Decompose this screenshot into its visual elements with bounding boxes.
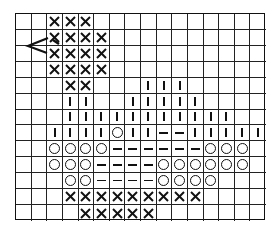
grid-cell [32, 125, 48, 141]
grid-cell [125, 173, 141, 189]
pattern-grid [15, 13, 265, 220]
grid-cell [219, 62, 235, 78]
grid-cell [47, 141, 63, 157]
cross-symbol-icon [49, 16, 60, 27]
grid-cell [172, 173, 188, 189]
bar-symbol-icon [132, 112, 134, 121]
dash-symbol-icon [97, 180, 106, 182]
circle-symbol-icon [174, 175, 185, 186]
grid-cell [188, 125, 204, 141]
grid-cell [79, 30, 95, 46]
circle-symbol-icon [237, 159, 248, 170]
circle-symbol-icon [65, 143, 76, 154]
bar-symbol-icon [100, 112, 102, 121]
grid-cell [204, 94, 220, 110]
grid-cell [157, 189, 173, 205]
dash-symbol-icon [144, 180, 153, 182]
cross-symbol-icon [80, 191, 91, 202]
grid-cell [157, 141, 173, 157]
grid-cell [110, 78, 126, 94]
grid-cell [125, 141, 141, 157]
grid-cell [16, 173, 32, 189]
grid-cell [235, 14, 251, 30]
cross-symbol-icon [96, 64, 107, 75]
grid-cell [94, 110, 110, 126]
grid-cell [32, 205, 48, 221]
circle-symbol-icon [65, 159, 76, 170]
grid-cell [94, 189, 110, 205]
grid-cell [188, 173, 204, 189]
grid-cell [47, 173, 63, 189]
cross-symbol-icon [112, 191, 123, 202]
bar-symbol-icon [241, 128, 243, 137]
grid-cell [204, 205, 220, 221]
bar-symbol-icon [69, 128, 71, 137]
grid-cell [219, 141, 235, 157]
cross-symbol-icon [65, 64, 76, 75]
grid-cell [188, 141, 204, 157]
grid-cell [235, 173, 251, 189]
bar-symbol-icon [225, 112, 227, 121]
grid-cell [204, 78, 220, 94]
grid-cell [32, 141, 48, 157]
grid-cell [63, 110, 79, 126]
dash-symbol-icon [175, 148, 184, 150]
cross-symbol-icon [96, 48, 107, 59]
cross-symbol-icon [190, 191, 201, 202]
grid-cell [79, 205, 95, 221]
grid-cell [204, 173, 220, 189]
circle-symbol-icon [96, 143, 107, 154]
grid-cell [63, 141, 79, 157]
grid-cell [172, 46, 188, 62]
circle-symbol-icon [205, 159, 216, 170]
grid-cell [94, 46, 110, 62]
dash-symbol-icon [128, 164, 137, 166]
grid-cell [219, 125, 235, 141]
bar-symbol-icon [147, 97, 149, 106]
grid-cell [110, 30, 126, 46]
grid-cell [172, 14, 188, 30]
cross-symbol-icon [143, 208, 154, 219]
grid-cell [125, 125, 141, 141]
grid-cell [125, 205, 141, 221]
circle-symbol-icon [49, 143, 60, 154]
grid-cell [63, 46, 79, 62]
grid-cell [250, 125, 266, 141]
grid-cell [219, 30, 235, 46]
grid-cell [110, 110, 126, 126]
grid-cell [250, 14, 266, 30]
grid-cell [125, 30, 141, 46]
cross-symbol-icon [49, 32, 60, 43]
grid-cell [79, 110, 95, 126]
grid-cell [32, 110, 48, 126]
circle-symbol-icon [221, 159, 232, 170]
grid-cell [250, 46, 266, 62]
grid-cell [32, 157, 48, 173]
grid-cell [94, 78, 110, 94]
grid-cell [141, 14, 157, 30]
grid-cell [172, 78, 188, 94]
grid-cell [188, 62, 204, 78]
grid-cell [94, 125, 110, 141]
dash-symbol-icon [128, 180, 137, 182]
dash-symbol-icon [144, 164, 153, 166]
cross-symbol-icon [96, 191, 107, 202]
grid-cell [141, 125, 157, 141]
cross-symbol-icon [80, 32, 91, 43]
grid-cell [235, 110, 251, 126]
dash-symbol-icon [159, 148, 168, 150]
grid-cell [125, 110, 141, 126]
grid-cell [235, 141, 251, 157]
circle-symbol-icon [205, 175, 216, 186]
grid-cell [219, 189, 235, 205]
cross-symbol-icon [65, 32, 76, 43]
grid-cell [110, 205, 126, 221]
grid-cell [157, 78, 173, 94]
grid-cell [172, 62, 188, 78]
cross-symbol-icon [80, 48, 91, 59]
grid-cell [141, 62, 157, 78]
grid-cell [172, 30, 188, 46]
grid-cell [94, 94, 110, 110]
grid-cell [110, 141, 126, 157]
grid-cell [47, 46, 63, 62]
